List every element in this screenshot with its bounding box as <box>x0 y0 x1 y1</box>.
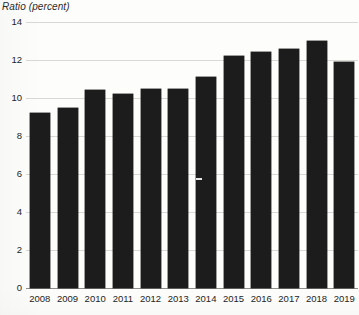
bar-slot <box>164 22 192 288</box>
bar-slot <box>54 22 82 288</box>
x-tick-label: 2012 <box>137 293 165 304</box>
bar-slot <box>81 22 109 288</box>
y-tick-label: 8 <box>0 130 22 141</box>
bar-slot <box>137 22 165 288</box>
bar-2008 <box>30 113 50 288</box>
bar-slot <box>247 22 275 288</box>
bar-2012 <box>141 89 161 289</box>
y-tick-label: 2 <box>0 244 22 255</box>
bar-2015 <box>224 56 244 288</box>
y-tick-label: 14 <box>0 16 22 27</box>
bar-2009 <box>58 108 78 289</box>
bar-chart-figure: Ratio (percent) 02468101214 200820092010… <box>0 0 359 315</box>
bar-2018 <box>307 41 327 288</box>
y-axis-label: Ratio (percent) <box>2 1 70 12</box>
bar-slot <box>330 22 358 288</box>
x-tick-label: 2010 <box>81 293 109 304</box>
y-tick-label: 12 <box>0 54 22 65</box>
bar-2011 <box>113 94 133 288</box>
bar-series <box>26 22 358 288</box>
plot-area <box>26 22 358 288</box>
bar-2019 <box>334 62 354 288</box>
bar-slot <box>192 22 220 288</box>
x-tick-label: 2009 <box>54 293 82 304</box>
axis-baseline <box>26 288 358 289</box>
bar-slot <box>275 22 303 288</box>
x-tick-label: 2016 <box>247 293 275 304</box>
x-tick-label: 2019 <box>330 293 358 304</box>
y-tick-label: 10 <box>0 92 22 103</box>
x-tick-label: 2018 <box>303 293 331 304</box>
x-tick-label: 2014 <box>192 293 220 304</box>
x-tick-label: 2015 <box>220 293 248 304</box>
bar-2016 <box>251 52 271 288</box>
bar-2014 <box>196 77 216 288</box>
bar-slot <box>303 22 331 288</box>
bar-slot <box>109 22 137 288</box>
x-tick-label: 2008 <box>26 293 54 304</box>
x-tick-label: 2017 <box>275 293 303 304</box>
bar-2013 <box>168 89 188 289</box>
x-axis-ticks: 2008200920102011201220132014201520162017… <box>26 293 358 304</box>
x-tick-label: 2011 <box>109 293 137 304</box>
y-tick-label: 6 <box>0 168 22 179</box>
bar-slot <box>26 22 54 288</box>
bar-2010 <box>85 90 105 288</box>
x-tick-label: 2013 <box>164 293 192 304</box>
y-tick-label: 0 <box>0 282 22 293</box>
bar-slot <box>220 22 248 288</box>
y-tick-label: 4 <box>0 206 22 217</box>
bar-2017 <box>279 49 299 288</box>
